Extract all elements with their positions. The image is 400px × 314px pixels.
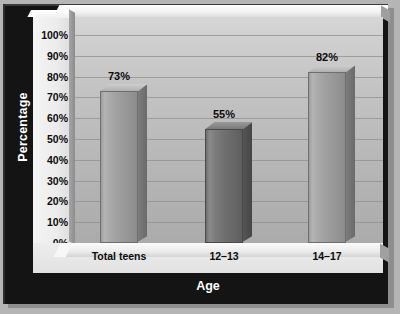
bar-front-face — [308, 72, 346, 243]
y-axis-tick-label: 100% — [33, 30, 72, 40]
y-axis-title: Percentage — [16, 37, 30, 217]
x-axis-tick-label: 12–13 — [169, 250, 279, 262]
y-axis-tick-label: 30% — [33, 176, 72, 186]
y-axis-title-band: Percentage — [7, 17, 33, 243]
bar-side-face — [346, 66, 355, 242]
x-axis-tick-label: Total teens — [64, 250, 174, 262]
y-axis-panel-top — [33, 10, 72, 18]
bar-front-face — [205, 129, 243, 243]
gridline — [72, 35, 383, 36]
bar — [308, 72, 346, 243]
bar-side-face — [243, 122, 252, 242]
y-axis-tick-label: 70% — [33, 92, 72, 102]
bar-value-label: 82% — [297, 51, 357, 63]
frame-bevel-left — [3, 4, 5, 304]
y-axis-panel-side — [69, 9, 75, 245]
bar-value-label: 55% — [194, 108, 254, 120]
y-axis-tick-label: 10% — [33, 217, 72, 227]
bar-chart: 100%90%80%70%60%50%40%30%20%10%0% Percen… — [0, 0, 400, 314]
y-axis-tick-label: 60% — [33, 113, 72, 123]
bar-front-face — [100, 91, 138, 243]
y-axis-tick-label: 20% — [33, 196, 72, 206]
y-axis-tick-label: 80% — [33, 72, 72, 82]
bar-side-face — [138, 84, 147, 241]
x-axis-title: Age — [33, 279, 383, 293]
y-axis-tick-label: 40% — [33, 155, 72, 165]
bar-value-label: 73% — [89, 70, 149, 82]
y-axis-tick-label: 50% — [33, 134, 72, 144]
y-axis-tick-label: 90% — [33, 51, 72, 61]
bar — [205, 129, 243, 243]
x-axis-tick-label: 14–17 — [272, 250, 382, 262]
bar — [100, 91, 138, 243]
